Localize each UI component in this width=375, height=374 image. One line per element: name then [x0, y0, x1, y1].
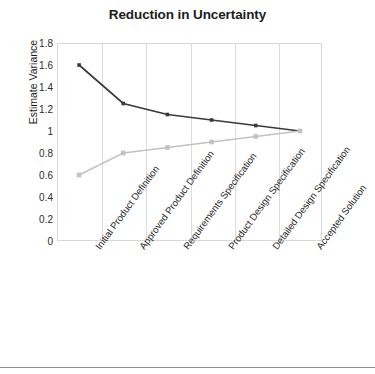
x-tick-label: Requirements Specification: [181, 245, 190, 251]
x-tick-label: Initial Product Definition: [93, 245, 102, 251]
x-tick-label: Accepted Solution: [314, 245, 323, 251]
bottom-divider: [0, 367, 375, 368]
x-tick-label: Approved Product Definition: [137, 245, 146, 251]
chart-container: Reduction in Uncertainty Estimate Varian…: [0, 0, 375, 374]
x-tick-label: Product Design Specification: [226, 245, 235, 251]
x-axis-tick-labels: Initial Product DefinitionApproved Produ…: [0, 0, 375, 374]
x-tick-label: Detailed Design Specification: [270, 245, 279, 251]
